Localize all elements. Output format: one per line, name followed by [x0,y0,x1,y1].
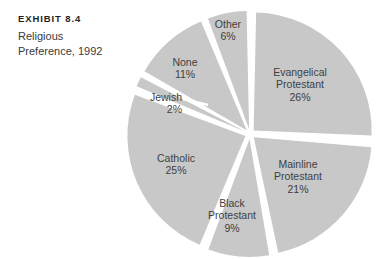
pie-slice-evangelical-protestant [254,13,372,136]
pie-chart-svg [0,0,388,259]
exhibit-figure: EXHIBIT 8.4 ReligiousPreference, 1992 Ev… [0,0,388,259]
pie-slice-group [127,11,371,257]
pie-slice-mainline-protestant [254,137,372,252]
pie-chart: Evangelical Protestant 26% Mainline Prot… [0,0,388,259]
